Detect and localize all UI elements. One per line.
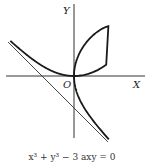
folium-diagram: Y X O x³ + y³ − 3 axy = 0 <box>0 0 145 166</box>
x-axis-label: X <box>132 79 141 90</box>
asymptote-line <box>8 42 108 142</box>
equation-caption: x³ + y³ − 3 axy = 0 <box>28 152 115 162</box>
y-axis-label: Y <box>63 5 71 16</box>
origin-label: O <box>63 79 71 90</box>
folium-curve <box>10 26 109 139</box>
